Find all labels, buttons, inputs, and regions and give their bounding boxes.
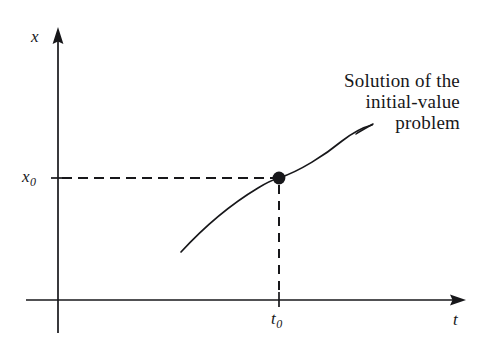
diagram-svg xyxy=(0,0,484,351)
figure-canvas: Solution of the initial-value problem x … xyxy=(0,0,484,351)
initial-condition-point xyxy=(273,172,286,185)
x0-tick-label: x0 xyxy=(22,168,36,191)
x0-subscript: 0 xyxy=(30,175,37,189)
t0-tick-label: t0 xyxy=(271,310,282,333)
x-axis-label: x xyxy=(31,28,39,45)
x0-base: x xyxy=(22,167,30,186)
annotation-line-1: Solution of the xyxy=(248,70,460,91)
t-axis-label: t xyxy=(453,311,458,328)
annotation-solution-label: Solution of the initial-value problem xyxy=(248,70,460,133)
solution-curve xyxy=(181,125,372,252)
annotation-line-2: initial-value xyxy=(248,91,460,112)
x-axis-arrowhead xyxy=(53,27,64,44)
annotation-line-3: problem xyxy=(248,112,460,133)
t0-subscript: 0 xyxy=(276,317,283,331)
